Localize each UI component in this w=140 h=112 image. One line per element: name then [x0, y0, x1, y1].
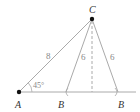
side-label-cb1: 6: [81, 52, 86, 62]
point-c: [90, 17, 94, 21]
point-a: [17, 90, 21, 94]
angle-label: 45°: [33, 81, 44, 90]
label-c: C: [89, 4, 96, 15]
side-cb1: [66, 19, 92, 92]
triangle-diagram: A C B B 8 6 6 45°: [0, 0, 140, 112]
label-b2: B: [118, 99, 124, 110]
side-label-ac: 8: [46, 51, 51, 61]
label-b1: B: [58, 99, 64, 110]
side-label-cb2: 6: [110, 52, 115, 62]
angle-arc-a: [28, 83, 32, 92]
label-a: A: [14, 99, 22, 110]
